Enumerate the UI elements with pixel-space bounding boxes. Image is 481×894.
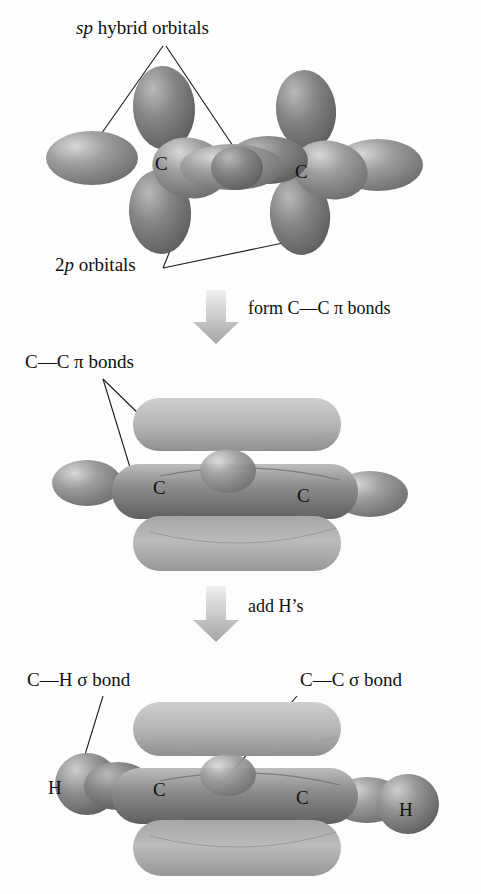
cc-sigma-overlap	[200, 754, 256, 796]
carbon-left-symbol: C	[153, 779, 166, 800]
carbon-right-symbol: C	[296, 787, 309, 808]
sp-lobe-left-outer	[46, 131, 138, 185]
step-add-hydrogens: add H’s	[0, 584, 481, 644]
pi-lobe-top	[133, 398, 341, 451]
sp-overlap-lobe	[211, 146, 263, 190]
down-arrow-2	[0, 584, 481, 644]
pi-inner-overlap	[200, 449, 256, 493]
hydrogen-right-symbol: H	[399, 799, 413, 820]
step-add-hydrogens-label: add H’s	[248, 596, 304, 617]
down-arrow-icon	[193, 586, 239, 642]
carbon-right-symbol: C	[295, 161, 308, 182]
panel-acetylene-graphic: H C C H	[0, 644, 481, 894]
carbon-left-symbol: C	[155, 153, 168, 174]
sp-lobe-left-outer	[52, 460, 122, 506]
panel-pi-bonds-graphic: C C	[0, 346, 481, 582]
step-form-pi-bonds: form C—C π bonds	[0, 288, 481, 346]
carbon-right-symbol: C	[297, 485, 310, 506]
panel-sp-2p-graphic: C C	[0, 0, 481, 285]
step-form-pi-bonds-label: form C—C π bonds	[248, 298, 391, 319]
figure-canvas: sp hybrid orbitals 2p orbitals	[0, 0, 481, 894]
hydrogen-left-symbol: H	[48, 777, 62, 798]
pi-lobe-bottom	[133, 820, 341, 876]
panel-acetylene: C—H σ bond C—C σ bond	[0, 644, 481, 894]
panel-sp-2p: sp hybrid orbitals 2p orbitals	[0, 0, 481, 285]
down-arrow-1	[0, 288, 481, 346]
2p-leader-lines	[163, 241, 283, 268]
down-arrow-icon	[193, 290, 239, 344]
carbon-left-symbol: C	[153, 477, 166, 498]
panel-pi-bonds: C—C π bonds C C	[0, 346, 481, 582]
